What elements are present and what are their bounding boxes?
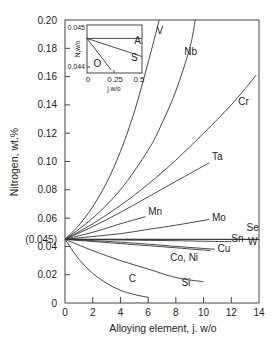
x-tick-label: 2 [90, 307, 96, 318]
curve-labels: VNbCrTaMnMoSeSnWCuCo, NiSiC [129, 25, 259, 288]
y-tick-label: 0.08 [38, 184, 58, 195]
y-tick-label: 0 [51, 298, 57, 309]
curve-label-c: C [129, 273, 136, 284]
y-tick-label: 0.12 [38, 128, 58, 139]
curve-label-ta: Ta [212, 151, 223, 162]
inset-xtick-0: 0 [86, 75, 91, 84]
inset-xtick-2: 0.5 [133, 75, 145, 84]
x-tick-label: 8 [173, 307, 179, 318]
x-tick-label: 6 [145, 307, 151, 318]
y-tick-label: 0.10 [38, 156, 58, 167]
curve-label-v: V [156, 25, 163, 36]
inset-curve-label-o: O [94, 58, 102, 69]
curve-label-se: Se [247, 222, 260, 233]
curve-label-nb: Nb [184, 46, 197, 57]
y-tick-label: 0.16 [38, 71, 58, 82]
x-axis-ticks: 02468101214 [62, 297, 265, 318]
y-tick-label: 0.18 [38, 43, 58, 54]
inset-y-axis-label: N,w/o [74, 40, 81, 57]
y-tick-label: 0.02 [38, 269, 58, 280]
inset-curve-label-a: A [134, 35, 141, 46]
inset-ytick-top: 0.045 [67, 24, 85, 31]
y-tick-label: 0.14 [38, 99, 58, 110]
inset-x-axis-label: j.w/o [106, 85, 121, 93]
nitrogen-solubility-chart: 00.020.040.060.080.100.120.140.160.180.2… [0, 0, 274, 351]
special-ytick-label: (0.045) [25, 234, 57, 245]
curve-label-si: Si [181, 277, 190, 288]
x-tick-label: 0 [62, 307, 68, 318]
x-tick-label: 10 [198, 307, 210, 318]
x-axis-label: Alloying element, j. w/o [109, 322, 217, 334]
inset-xtick-1: 0.25 [107, 75, 123, 84]
inset-curve-label-s: S [131, 52, 138, 63]
y-tick-label: 0.20 [38, 15, 58, 26]
y-axis-label: Nitrogen, wt.% [8, 128, 20, 196]
curve-label-cr: Cr [238, 96, 249, 107]
inset-chart: ASO 0.045 0.044 0 0.25 0.5 j.w/o N,w/o [67, 24, 145, 93]
y-tick-label: 0.06 [38, 213, 58, 224]
x-tick-label: 14 [253, 307, 265, 318]
curve-label-sn: Sn [231, 233, 243, 244]
x-tick-label: 4 [118, 307, 124, 318]
curve-label-w: W [248, 236, 258, 247]
curve-label-mn: Mn [148, 206, 162, 217]
x-tick-label: 12 [226, 307, 238, 318]
curve-label-co-ni: Co, Ni [170, 252, 198, 263]
curve-c [65, 239, 148, 297]
curve-label-mo: Mo [212, 212, 226, 223]
curve-label-cu: Cu [217, 243, 230, 254]
inset-ytick-bottom: 0.044 [67, 63, 85, 70]
